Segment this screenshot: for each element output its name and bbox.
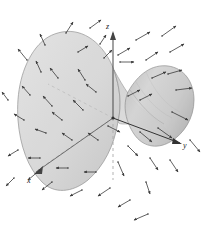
field-arrow: [118, 200, 130, 207]
field-arrow-base: [107, 125, 109, 127]
field-arrow: [118, 48, 130, 55]
field-arrow-base: [157, 127, 159, 129]
field-arrow: [162, 26, 176, 36]
field-arrow-base: [51, 181, 53, 183]
origin-dot: [111, 116, 114, 119]
field-arrow-base: [127, 145, 129, 147]
field-arrow-base: [135, 39, 137, 41]
field-arrow-base: [99, 43, 101, 45]
field-arrow-base: [171, 111, 173, 113]
field-arrow: [170, 160, 178, 172]
field-arrow-base: [81, 189, 83, 191]
figure-canvas: z y x: [0, 0, 210, 229]
field-arrow-base: [61, 119, 63, 121]
field-arrow: [98, 188, 110, 196]
field-arrow-base: [51, 105, 53, 107]
field-arrow-base: [169, 159, 171, 161]
field-arrow: [90, 20, 101, 28]
z-axis-label: z: [105, 22, 110, 31]
y-axis-label: y: [182, 141, 187, 150]
field-arrow-base: [65, 32, 67, 34]
field-arrow-base: [95, 91, 97, 93]
field-arrow: [150, 158, 158, 170]
field-arrow-base: [127, 95, 129, 97]
saddle-surface-diagram: z y x: [0, 0, 210, 229]
field-arrow-base: [145, 59, 147, 61]
field-arrow: [8, 150, 18, 156]
field-arrow-base: [95, 171, 97, 173]
field-arrow-base: [7, 99, 9, 101]
field-arrow-base: [40, 71, 42, 73]
field-arrow-base: [82, 109, 84, 111]
surface-right-lobe: [125, 66, 194, 146]
field-arrow-base: [117, 161, 119, 163]
field-arrow-base: [89, 27, 91, 29]
field-arrow-base: [13, 177, 15, 179]
field-arrow-base: [57, 77, 59, 79]
field-arrow-base: [26, 59, 28, 61]
z-axis-arrowhead: [110, 31, 116, 40]
field-arrow-base: [117, 54, 119, 56]
field-arrow-base: [161, 35, 163, 37]
field-arrow-base: [167, 73, 169, 75]
field-arrow: [70, 190, 82, 196]
field-arrow-base: [77, 51, 79, 53]
field-arrow-base: [39, 169, 41, 171]
y-axis-arrowhead: [172, 138, 182, 144]
field-arrow-base: [129, 199, 131, 201]
field-arrow-base: [169, 51, 171, 53]
field-arrow-base: [119, 61, 121, 63]
field-arrow-base: [147, 213, 149, 215]
field-arrow: [146, 182, 150, 194]
field-arrow: [128, 146, 138, 156]
field-arrow: [146, 52, 158, 60]
field-arrow: [190, 140, 200, 152]
field-arrow-base: [151, 77, 153, 79]
field-arrow-base: [17, 149, 19, 151]
field-arrow-base: [29, 94, 31, 96]
field-arrow-base: [23, 119, 25, 121]
field-arrow-base: [97, 139, 99, 141]
field-arrow-base: [189, 139, 191, 141]
field-arrow: [2, 92, 8, 100]
field-arrow: [134, 214, 148, 220]
field-arrow-base: [67, 167, 69, 169]
field-arrow: [100, 35, 106, 44]
x-axis-label: x: [26, 176, 31, 185]
field-arrow-base: [103, 57, 105, 59]
field-arrow: [118, 162, 124, 176]
field-arrow: [18, 49, 27, 60]
field-arrow-base: [139, 131, 141, 133]
field-arrow-base: [145, 181, 147, 183]
field-arrow-base: [149, 157, 151, 159]
field-arrow-base: [71, 139, 73, 141]
field-arrow-base: [45, 132, 47, 134]
field-arrow-base: [175, 89, 177, 91]
field-arrow-base: [84, 79, 86, 81]
field-arrow: [170, 44, 184, 52]
field-arrow-base: [109, 187, 111, 189]
surface-left-lobe: [18, 31, 120, 190]
field-arrow-base: [44, 44, 46, 46]
field-arrow-base: [39, 157, 41, 159]
field-arrow: [136, 32, 150, 40]
field-arrow: [6, 178, 14, 186]
field-arrow-base: [139, 99, 141, 101]
